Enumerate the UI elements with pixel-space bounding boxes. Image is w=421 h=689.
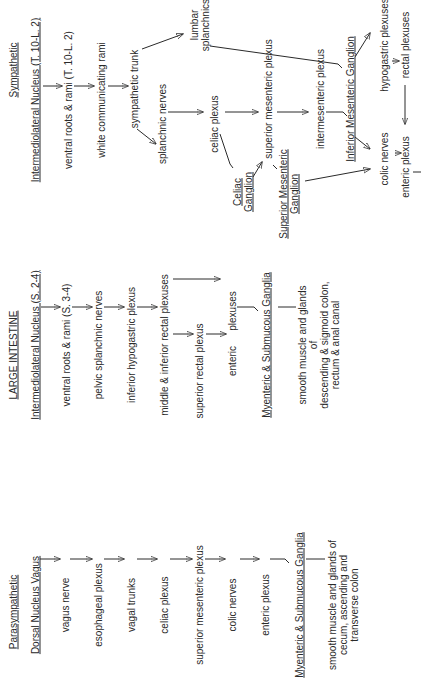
fork-sym-celiac-ganglion: [230, 164, 233, 168]
li-pelvic-splanchnic: pelvic splanchnic nerves: [93, 291, 104, 399]
li-target-line-3: descending & sigmoid colon,: [319, 281, 330, 408]
para-ganglia: Myenteric & Submucous Ganglia: [294, 532, 305, 678]
fork-sym-supmes-ganglion: [273, 165, 277, 169]
sym-colic-nerves: colic nerves: [379, 133, 390, 186]
sym-white-rami: white communicating rami: [96, 42, 107, 158]
li-plexuses-label: plexuses: [227, 291, 238, 330]
para-vagal-trunks: vagal trunks: [126, 578, 137, 632]
sym-celiac-ganglion-line-1: Celiac: [232, 178, 243, 206]
li-superior-rectal-plexus: superior rectal plexus: [194, 323, 205, 418]
sym-lumbar-line-1: lumbar: [189, 10, 200, 41]
sym-lumbar-line-2: splanchnics: [200, 0, 211, 51]
sym-hypogastric-plexuses: hypogastric plexuses: [379, 0, 390, 92]
sym-celiac-ganglion-line-2: Ganglion: [243, 172, 254, 212]
sym-ventral-roots: ventral roots & rami (T. 10-L. 2): [63, 31, 74, 169]
large-intestine-heading: LARGE INTESTINE: [8, 311, 19, 400]
sym-superior-mesenteric-ganglion-line-1: Superior Mesenteric: [278, 149, 289, 238]
para-vagus-nerve: vagus nerve: [60, 578, 71, 632]
li-target-line-2: of: [308, 341, 319, 349]
arrow-sym-trunk-splanchnic: [137, 129, 156, 144]
sym-splanchnic-nerves: splanchnic nerves: [157, 84, 168, 164]
sym-superior-mesenteric-ganglion-line-2: Ganglion: [289, 174, 300, 214]
para-esophageal-plexus: esophageal plexus: [93, 563, 104, 646]
li-inferior-hypogastric: inferior hypogastric plexus: [126, 287, 137, 403]
arrow-sym-supmes-gang-colic: [305, 169, 370, 181]
sym-rectal-plexuses: rectal plexuses: [400, 12, 411, 79]
parasympathetic-heading: Parasympathetic: [8, 575, 19, 649]
fork-li-ganglia: [237, 307, 258, 311]
para-nucleus: Dorsal Nucleus Vagus: [30, 556, 41, 654]
li-ganglia: Myenteric & Submucous Ganglia: [261, 272, 272, 418]
sym-trunk: sympathetic trunk: [129, 50, 140, 128]
arrow-sym-infmes-colic: [355, 137, 370, 149]
para-celiac-plexus: celiac plexus: [159, 576, 170, 633]
li-middle-inferior-rectal: middle & inferior rectal plexuses: [159, 274, 170, 416]
sym-intermesenteric-plexus: intermesenteric plexus: [315, 49, 326, 149]
sym-superior-mesenteric-plexus: superior mesenteric plexus: [263, 39, 274, 159]
para-superior-mesenteric-plexus: superior mesenteric plexus: [194, 545, 205, 665]
fork-para-ganglia: [270, 559, 289, 563]
sym-enteric-plexus: enteric plexus: [400, 136, 411, 198]
sym-inferior-mesenteric-ganglion: Inferior Mesenteric Ganglion: [345, 36, 356, 162]
sympathetic-heading: Sympathetic: [8, 42, 19, 97]
li-target-line-1: smooth muscle and glands: [297, 286, 308, 405]
para-target-line-3: transverse colon: [349, 568, 360, 641]
para-colic-nerves: colic nerves: [227, 579, 238, 632]
sym-celiac-plexus: celiac plexus: [209, 95, 220, 152]
li-enteric-label: enteric: [227, 346, 238, 376]
para-enteric-plexus: enteric plexus: [260, 574, 271, 636]
para-target-line-2: cecum, ascending and: [338, 555, 349, 655]
arrow-sym-infmes-hypogastric: [355, 33, 370, 57]
li-nucleus: Intermediolateral Nucleus (S. 2-4): [30, 270, 41, 420]
arrow-sym-celiac-gang-supmes: [253, 162, 262, 177]
fork-sym-infmes-lumbar: [338, 64, 342, 68]
arrow-sym-trunk-lumbar: [142, 34, 183, 49]
line-sym-celiac-ganglion: [220, 134, 230, 164]
li-ventral-roots: ventral roots & rami (S. 3-4): [61, 284, 72, 407]
li-target-line-4: rectum & anal canal: [330, 301, 341, 389]
autonomic-innervation-diagram: Parasympathetic Dorsal Nucleus Vagus vag…: [0, 0, 421, 689]
para-target-line-1: smooth muscle and glands of: [327, 540, 338, 670]
sym-nucleus: Intermediolateral Nucleus (T. 10-L. 2): [30, 18, 41, 183]
